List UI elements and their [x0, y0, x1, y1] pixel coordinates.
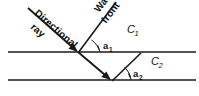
refraction-diagram: Directional ray Wave front C 1 C 2 a 1 a…	[0, 0, 199, 96]
angle-a2-subscript: 2	[139, 74, 143, 81]
angle-a1-subscript: 1	[109, 46, 113, 53]
angle-a1-tick	[98, 46, 100, 50]
angle-a1-arc	[92, 40, 101, 52]
speed-c2-subscript: 2	[158, 61, 164, 70]
refracted-ray-line	[78, 52, 107, 77]
angle-a2-arc	[125, 68, 132, 81]
diagram-canvas: Directional ray Wave front C 1 C 2 a 1 a…	[0, 0, 199, 96]
speed-c1-subscript: 1	[135, 29, 139, 38]
